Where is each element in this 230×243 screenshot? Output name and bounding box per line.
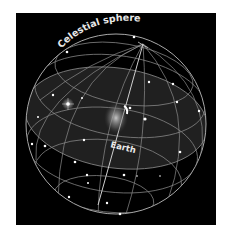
celestial-sphere-diagram: Celestial sphere Earth (0, 0, 230, 243)
star-icon (172, 83, 174, 85)
star-icon (87, 182, 89, 184)
star-icon (52, 94, 54, 96)
star-icon (81, 97, 83, 99)
star-icon (66, 51, 69, 54)
star-icon (119, 213, 122, 216)
star-icon (198, 110, 200, 112)
star-icon (68, 196, 70, 198)
star-icon (133, 36, 136, 39)
star-icon (83, 139, 85, 141)
bright-star-icon (62, 98, 74, 110)
star-icon (179, 151, 182, 154)
star-icon (74, 161, 77, 164)
star-icon (143, 117, 146, 120)
star-icon (129, 107, 132, 110)
star-icon (37, 116, 39, 118)
star-icon (176, 101, 178, 103)
star-icon (159, 175, 161, 177)
star-icon (123, 174, 126, 177)
star-icon (136, 175, 138, 177)
earth-icon (104, 102, 128, 134)
star-icon (31, 143, 33, 145)
star-icon (44, 145, 47, 148)
star-icon (106, 202, 108, 204)
star-icon (148, 81, 150, 83)
star-icon (86, 174, 88, 176)
